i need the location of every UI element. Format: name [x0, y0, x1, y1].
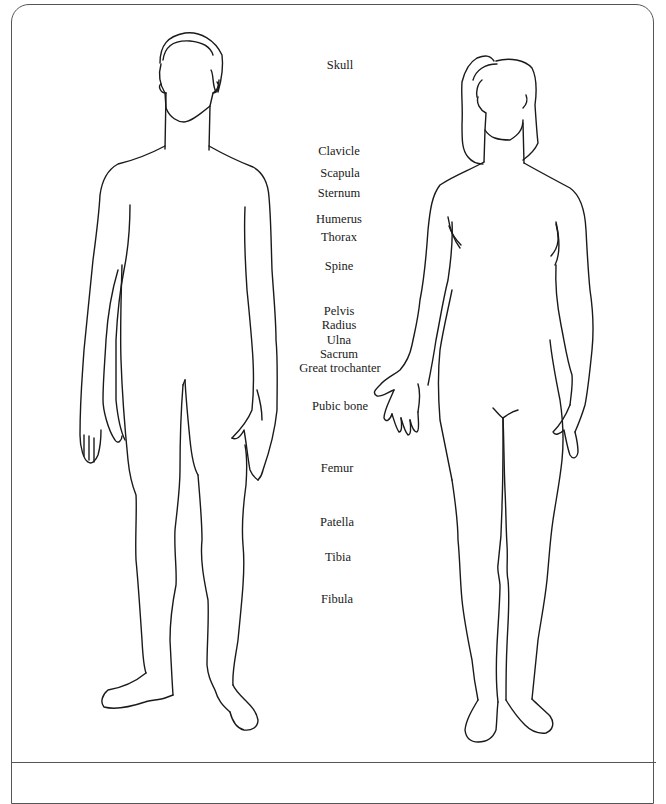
label-femur: Femur — [321, 462, 354, 475]
label-pelvis: Pelvis — [324, 305, 355, 318]
label-skull: Skull — [327, 59, 353, 72]
label-great-trochanter: Great trochanter — [299, 362, 381, 375]
label-scapula: Scapula — [320, 167, 360, 180]
label-clavicle: Clavicle — [318, 145, 360, 158]
label-spine: Spine — [325, 260, 353, 273]
label-ulna: Ulna — [327, 334, 351, 347]
label-radius: Radius — [322, 319, 357, 332]
label-patella: Patella — [320, 516, 354, 529]
label-sternum: Sternum — [318, 187, 360, 200]
label-sacrum: Sacrum — [320, 348, 358, 361]
label-fibula: Fibula — [321, 593, 353, 606]
label-humerus: Humerus — [316, 213, 362, 226]
label-tibia: Tibia — [325, 551, 351, 564]
label-thorax: Thorax — [321, 231, 357, 244]
label-pubic-bone: Pubic bone — [312, 400, 368, 413]
